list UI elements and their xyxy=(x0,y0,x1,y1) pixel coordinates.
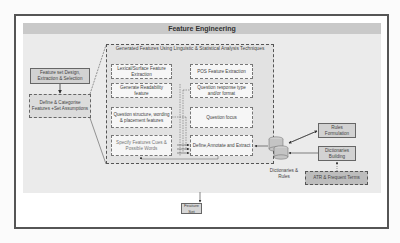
connectors xyxy=(0,0,400,243)
database-icon xyxy=(269,137,288,159)
